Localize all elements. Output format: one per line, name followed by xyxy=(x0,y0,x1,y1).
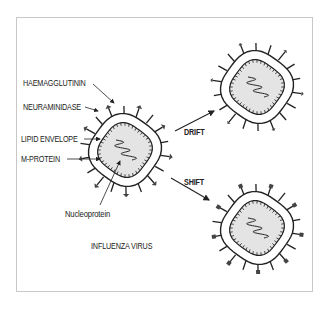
nucleoprotein-label: Nucleoprotein xyxy=(65,209,110,219)
drift-label: DRIFT xyxy=(184,127,204,137)
caption: INFLUENZA VIRUS xyxy=(91,241,152,251)
lipid-envelope-label: LIPID ENVELOPE xyxy=(21,134,78,144)
influenza-virus-shift xyxy=(212,184,304,275)
neuraminidase-label: NEURAMINIDASE xyxy=(23,102,81,112)
m-protein-label: M-PROTEIN xyxy=(21,154,60,164)
haemagglutinin-label: HAEMAGGLUTININ xyxy=(23,78,86,88)
shift-label: SHIFT xyxy=(184,177,204,187)
neuraminidase-pointer xyxy=(85,107,98,111)
influenza-virus-drift xyxy=(210,43,303,131)
haemagglutinin-pointer xyxy=(93,84,114,103)
influenza-virus-original xyxy=(79,105,173,197)
